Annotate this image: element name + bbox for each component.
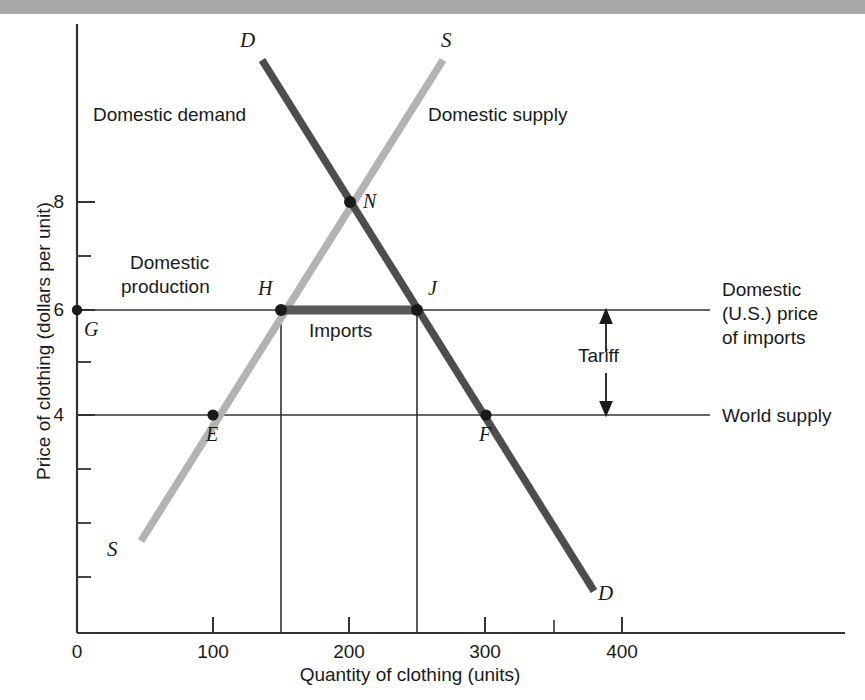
us-price-label-line3: of imports [722, 326, 805, 350]
supply-curve-top-label: S [441, 28, 452, 53]
domestic-supply-label: Domestic supply [428, 103, 567, 127]
tariff-diagram-figure: Price of clothing (dollars per unit) Qua… [0, 0, 865, 700]
x-tick-label-300: 300 [455, 641, 515, 663]
point-E [207, 409, 218, 420]
y-axis-minor-ticks [77, 256, 91, 577]
us-price-label-line2: (U.S.) price [722, 302, 818, 326]
world-supply-label: World supply [722, 404, 831, 428]
demand-curve-bottom-label: D [598, 581, 613, 606]
imports-label: Imports [309, 319, 372, 343]
y-tick-label-8: 8 [38, 191, 64, 213]
domestic-production-label-line2: production [121, 275, 210, 299]
y-tick-label-6: 6 [38, 299, 64, 321]
point-label-N: N [363, 190, 376, 213]
x-tick-label-100: 100 [183, 641, 243, 663]
point-label-E: E [206, 423, 218, 446]
point-G [72, 305, 82, 315]
demand-curve-top-label: D [240, 28, 255, 53]
x-tick-label-0: 0 [47, 641, 107, 663]
point-label-J: J [428, 277, 437, 300]
point-N [344, 196, 356, 208]
x-tick-label-200: 200 [319, 641, 379, 663]
point-label-H: H [258, 277, 272, 300]
x-axis-title: Quantity of clothing (units) [200, 664, 620, 686]
point-H [275, 304, 287, 316]
y-tick-label-4: 4 [38, 404, 64, 426]
domestic-demand-label: Domestic demand [93, 103, 246, 127]
supply-curve-bottom-label: S [107, 537, 118, 562]
us-price-label-line1: Domestic [722, 278, 801, 302]
y-axis-title: Price of clothing (dollars per unit) [33, 191, 55, 491]
domestic-production-label-line1: Domestic [130, 251, 209, 275]
point-F [480, 409, 491, 420]
x-tick-label-400: 400 [592, 641, 652, 663]
tariff-label: Tariff [578, 344, 619, 368]
point-label-F: F [479, 423, 491, 446]
point-J [411, 304, 423, 316]
point-label-G: G [84, 318, 98, 341]
domestic-supply-curve [141, 60, 443, 541]
